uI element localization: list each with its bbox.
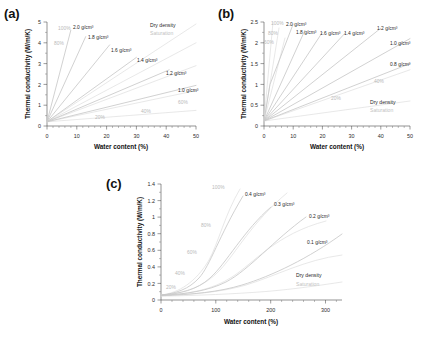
density-label: 1.0 g/cm³	[178, 88, 199, 93]
panel-c-saturation-labels: 100% 80% 60% 40% 20%	[166, 185, 225, 290]
panel-a-ytick-labels: 0 1 2 3 4 5	[38, 19, 41, 129]
saturation-label: 80%	[201, 223, 211, 228]
xtick-label: 50	[407, 133, 413, 139]
panel-b-xaxis-title: Water content (%)	[310, 143, 364, 151]
ytick-label: 0.6	[148, 247, 156, 253]
panel-a-plot: 0 1 2 3 4 5 0 10 20 30 40 50 Water conte…	[0, 0, 214, 172]
panel-a: (a)	[0, 0, 214, 172]
ytick-label: 1	[38, 102, 41, 108]
ytick-label: 2	[38, 82, 41, 88]
xtick-label: 300	[321, 307, 330, 313]
density-label: 0.1 g/cm³	[307, 240, 328, 245]
saturation-label: 100%	[212, 185, 225, 190]
xtick-label: 40	[163, 133, 169, 139]
density-label: 1.4 g/cm³	[137, 58, 158, 63]
saturation-label: 60%	[187, 250, 197, 255]
density-label: 0.2 g/cm³	[309, 214, 330, 219]
panel-c-xaxis-title: Water content (%)	[224, 318, 278, 326]
panel-a-xtick-labels: 0 10 20 30 40 50	[46, 133, 200, 139]
density-label: 1.8 g/cm³	[88, 35, 109, 40]
density-label: 1.2 g/cm³	[377, 26, 398, 31]
panel-a-yaxis-title: Thermal conductivity (W/m/K)	[24, 29, 32, 119]
saturation-label: 40%	[374, 79, 384, 84]
panel-b-ytick-labels: 0 0.5 1 1.5 2 2.5	[251, 19, 259, 129]
xtick-label: 30	[133, 133, 139, 139]
density-label: 0.4 g/cm³	[245, 192, 266, 197]
saturation-label: 80%	[268, 31, 278, 36]
density-label: 2.0 g/cm³	[286, 22, 307, 27]
panel-a-density-labels: 2.0 g/cm³ 1.8 g/cm³ 1.6 g/cm³ 1.4 g/cm³ …	[73, 25, 199, 93]
panel-c-plot: 0 0.2 0.4 0.6 0.8 1 1.2 1.4 0 100 200 30…	[104, 172, 354, 347]
xtick-label: 0	[46, 133, 49, 139]
xtick-label: 40	[378, 133, 384, 139]
panel-c-yaxis-title: Thermal conductivity (W/m/K)	[136, 197, 144, 287]
panel-c-density-labels: 0.4 g/cm³ 0.3 g/cm³ 0.2 g/cm³ 0.1 g/cm³	[245, 192, 330, 245]
ytick-label: 5	[38, 19, 41, 25]
ytick-label: 1.4	[148, 181, 156, 187]
panel-c-legend: Dry density Saturation	[296, 272, 322, 287]
panel-c-ytick-labels: 0 0.2 0.4 0.6 0.8 1 1.2 1.4	[148, 181, 156, 303]
figure-thermal-conductivity: (a)	[0, 0, 428, 347]
ytick-label: 1	[152, 214, 155, 220]
panel-c-xtick-labels: 0 100 200 300	[160, 307, 331, 313]
density-label: 1.4 g/cm³	[344, 31, 365, 36]
panel-a-density-curves	[47, 30, 196, 122]
density-label: 0.3 g/cm³	[274, 202, 295, 207]
xtick-label: 0	[263, 133, 266, 139]
panel-c: (c)	[104, 172, 354, 347]
ytick-label: 2	[255, 40, 258, 46]
density-label: 0.8 g/cm³	[390, 62, 411, 67]
legend-density-label: Dry density	[150, 22, 176, 28]
panel-a-xaxis-title: Water content (%)	[94, 143, 148, 151]
density-label: 1.6 g/cm³	[320, 31, 341, 36]
saturation-label: 80%	[54, 41, 64, 46]
saturation-label: 100%	[58, 26, 71, 31]
legend-saturation-label: Saturation	[370, 107, 393, 113]
xtick-label: 20	[319, 133, 325, 139]
legend-saturation-label: Saturation	[296, 281, 319, 287]
ytick-label: 0.2	[148, 281, 156, 287]
xtick-label: 50	[193, 133, 199, 139]
saturation-label: 20%	[331, 96, 341, 101]
ytick-label: 0.8	[148, 231, 156, 237]
ytick-label: 2.5	[251, 19, 259, 25]
density-label: 1.0 g/cm³	[390, 41, 411, 46]
panel-b-xtick-labels: 0 10 20 30 40 50	[263, 133, 414, 139]
saturation-label: 40%	[141, 109, 151, 114]
ytick-label: 1.5	[251, 61, 259, 67]
saturation-label: 60%	[178, 100, 188, 105]
xtick-label: 100	[211, 307, 220, 313]
density-label: 1.2 g/cm³	[166, 71, 187, 76]
panel-b: (b)	[214, 0, 428, 172]
ytick-label: 3	[38, 61, 41, 67]
legend-density-label: Dry density	[296, 272, 322, 278]
panel-b-density-labels: 2.0 g/cm³ 1.8 g/cm³ 1.6 g/cm³ 1.4 g/cm³ …	[286, 22, 411, 67]
xtick-label: 20	[104, 133, 110, 139]
density-label: 2.0 g/cm³	[73, 25, 94, 30]
panel-b-yaxis-title: Thermal conductivity (W/m/K)	[240, 29, 248, 119]
ytick-label: 0.5	[251, 102, 259, 108]
saturation-label: 60%	[264, 40, 274, 45]
ytick-label: 0	[38, 123, 41, 129]
xtick-label: 30	[349, 133, 355, 139]
ytick-label: 1	[255, 82, 258, 88]
ytick-label: 0	[152, 297, 155, 303]
saturation-label: 20%	[95, 115, 105, 120]
panel-b-plot: 0 0.5 1 1.5 2 2.5 0 10 20 30 40 50 Water…	[214, 0, 428, 172]
panel-a-legend: Dry density Saturation	[150, 22, 176, 36]
saturation-label: 40%	[175, 271, 185, 276]
ytick-label: 4	[38, 40, 41, 46]
ytick-label: 0.4	[148, 264, 156, 270]
ytick-label: 1.2	[148, 198, 156, 204]
xtick-label: 10	[74, 133, 80, 139]
ytick-label: 0	[255, 123, 258, 129]
legend-density-label: Dry density	[370, 99, 396, 105]
xtick-label: 200	[266, 307, 275, 313]
legend-saturation-label: Saturation	[150, 30, 173, 36]
saturation-label: 100%	[271, 21, 284, 26]
density-label: 1.6 g/cm³	[111, 48, 132, 53]
xtick-label: 0	[160, 307, 163, 313]
saturation-label: 20%	[166, 285, 176, 290]
xtick-label: 10	[290, 133, 296, 139]
density-label: 1.8 g/cm³	[296, 30, 317, 35]
